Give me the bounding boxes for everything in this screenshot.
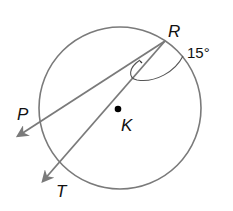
label-k: K xyxy=(121,116,133,135)
ray-rt xyxy=(43,41,165,181)
label-p: P xyxy=(17,105,29,124)
ray-rp xyxy=(18,41,165,136)
center-point-k xyxy=(115,106,122,113)
label-t: T xyxy=(56,182,68,201)
circle-diagram: R 15° P K T xyxy=(0,0,233,211)
label-r: R xyxy=(168,22,180,41)
label-angle-15: 15° xyxy=(187,44,210,61)
angle-arc xyxy=(131,56,183,80)
angle-tick xyxy=(140,61,142,63)
